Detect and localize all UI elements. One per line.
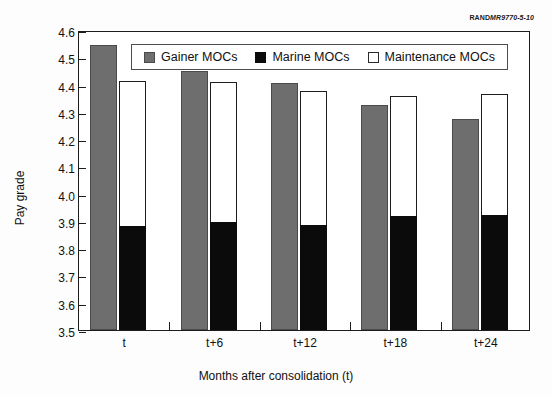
y-axis-tick: 4.6 bbox=[79, 32, 86, 33]
legend-item-label: Marine MOCs bbox=[272, 50, 349, 64]
y-axis-tick: 3.7 bbox=[79, 277, 86, 278]
bar-marine-mocs-t bbox=[119, 226, 146, 330]
y-axis-tick: 4.3 bbox=[79, 114, 86, 115]
x-axis-tick bbox=[169, 322, 170, 330]
y-axis-tick-label: 3.9 bbox=[58, 217, 75, 231]
y-axis-tick: 4.4 bbox=[79, 87, 86, 88]
y-axis-tick: 4.1 bbox=[79, 168, 86, 169]
x-axis-title: Months after consolidation (t) bbox=[0, 369, 552, 383]
legend-item-label: Gainer MOCs bbox=[161, 50, 237, 64]
y-axis-tick-label: 3.7 bbox=[58, 271, 75, 285]
bar-marine-mocs-tplus18 bbox=[390, 216, 417, 330]
chart-figure: RANDMR9770-5-10 Pay grade Months after c… bbox=[0, 0, 552, 395]
plot-area: 4.64.54.44.34.24.14.03.93.83.73.63.5tt+6… bbox=[78, 31, 530, 331]
white-square-icon bbox=[368, 52, 379, 63]
y-axis-tick-label: 3.8 bbox=[58, 244, 75, 258]
bar-marine-mocs-tplus12 bbox=[300, 225, 327, 330]
y-axis-tick-label: 4.2 bbox=[58, 135, 75, 149]
y-axis-tick: 3.5 bbox=[79, 332, 86, 333]
bar-marine-mocs-tplus6 bbox=[210, 222, 237, 330]
y-axis-title: Pay grade bbox=[10, 0, 30, 395]
y-axis-tick-label: 4.5 bbox=[58, 53, 75, 67]
y-axis-tick: 3.6 bbox=[79, 305, 86, 306]
bar-gainer-mocs-tplus12 bbox=[271, 83, 298, 330]
y-axis-tick-label: 4.0 bbox=[58, 190, 75, 204]
plot-inner: 4.64.54.44.34.24.14.03.93.83.73.63.5tt+6… bbox=[79, 32, 529, 330]
y-axis-tick: 3.8 bbox=[79, 250, 86, 251]
black-square-icon bbox=[255, 52, 266, 63]
y-axis-tick: 4.5 bbox=[79, 59, 86, 60]
x-axis-tick bbox=[441, 322, 442, 330]
y-axis-tick-label: 4.6 bbox=[58, 26, 75, 40]
y-axis-tick-label: 4.1 bbox=[58, 162, 75, 176]
y-axis-tick-label: 3.6 bbox=[58, 299, 75, 313]
legend-item-label: Maintenance MOCs bbox=[385, 50, 495, 64]
y-axis-tick: 4.2 bbox=[79, 141, 86, 142]
source-credit-prefix: RAND bbox=[469, 14, 490, 21]
y-axis-tick-label: 4.3 bbox=[58, 108, 75, 122]
gray-square-icon bbox=[144, 52, 155, 63]
legend-item-gainer-mocs: Gainer MOCs bbox=[144, 50, 237, 64]
bar-marine-mocs-tplus24 bbox=[481, 215, 508, 330]
source-credit-id: MR9770-5-10 bbox=[490, 14, 534, 21]
y-axis-tick: 3.9 bbox=[79, 223, 86, 224]
y-axis-tick: 4.0 bbox=[79, 196, 86, 197]
bar-gainer-mocs-tplus6 bbox=[181, 71, 208, 330]
x-axis-tick bbox=[260, 322, 261, 330]
bar-gainer-mocs-t bbox=[90, 45, 117, 330]
bar-gainer-mocs-tplus18 bbox=[361, 105, 388, 330]
chart-legend: Gainer MOCsMarine MOCsMaintenance MOCs bbox=[131, 44, 508, 70]
y-axis-tick-label: 3.5 bbox=[58, 326, 75, 340]
y-axis-title-text: Pay grade bbox=[13, 170, 27, 225]
x-axis-tick bbox=[350, 322, 351, 330]
legend-item-maintenance-mocs: Maintenance MOCs bbox=[368, 50, 495, 64]
bar-gainer-mocs-tplus24 bbox=[452, 119, 479, 330]
y-axis-tick-label: 4.4 bbox=[58, 81, 75, 95]
source-credit: RANDMR9770-5-10 bbox=[469, 14, 534, 21]
legend-item-marine-mocs: Marine MOCs bbox=[255, 50, 349, 64]
